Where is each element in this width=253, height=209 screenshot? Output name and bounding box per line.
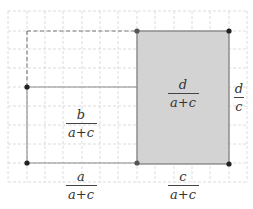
point-top-middle [134,28,139,33]
label-left-region: b a+c [64,108,98,139]
point-bottom-left [24,160,29,165]
denominator: a+c [166,186,200,201]
point-top-right [226,28,231,33]
point-left-middle [24,84,29,89]
label-right-side: d c [232,82,246,113]
label-bottom-right: c a+c [166,170,200,201]
point-bottom-middle [134,160,139,165]
denominator: a+c [64,124,98,139]
numerator: b [64,108,98,123]
area-model-diagram [0,0,253,209]
numerator: d [166,78,200,93]
label-bottom-left: a a+c [64,170,98,201]
denominator: a+c [166,94,200,109]
label-shaded-region: d a+c [166,78,200,109]
numerator: d [232,82,246,97]
denominator: c [232,98,246,113]
denominator: a+c [64,186,98,201]
numerator: c [166,170,200,185]
numerator: a [64,170,98,185]
point-bottom-right [226,161,231,166]
